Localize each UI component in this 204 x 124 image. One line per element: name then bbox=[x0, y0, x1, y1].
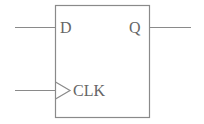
clock-edge-triangle-icon bbox=[56, 82, 71, 99]
q-output-label: Q bbox=[129, 19, 141, 36]
d-flip-flop-diagram: D Q CLK bbox=[0, 0, 204, 124]
clk-input-label: CLK bbox=[73, 82, 105, 99]
d-input-label: D bbox=[60, 19, 72, 36]
